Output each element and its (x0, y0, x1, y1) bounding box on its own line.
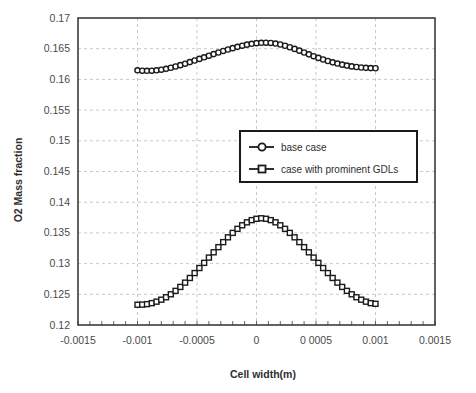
y-tick-label: 0.15 (50, 134, 71, 146)
data-point-marker (206, 255, 211, 260)
x-tick-label: 0 0005 (300, 334, 332, 346)
y-tick-label: 0.155 (44, 104, 70, 116)
x-tick-label: -0.0015 (60, 334, 96, 346)
y-tick-label: 0.16 (50, 73, 71, 85)
y-tick-label: 0.145 (44, 165, 70, 177)
x-tick-label: -0.001 (123, 334, 153, 346)
data-point-marker (302, 245, 307, 250)
data-point-marker (202, 260, 207, 265)
data-point-marker (316, 260, 321, 265)
data-point-marker (321, 266, 326, 271)
legend[interactable]: base casecase with prominent GDLs (240, 131, 417, 182)
y-tick-label: 0.13 (50, 257, 71, 269)
legend-entry-label: case with prominent GDLs (281, 164, 398, 175)
y-tick-labels: 0.120.1250.130.1350.140.1450.150.1550.16… (44, 12, 70, 331)
x-tick-label: 0 (254, 334, 260, 346)
legend-marker-circle (258, 143, 265, 150)
x-tick-labels: -0.0015-0.001-0.000500 00050.0010.0015 (60, 334, 451, 346)
x-tick-label: 0.001 (362, 334, 388, 346)
y-tick-label: 0.14 (50, 196, 71, 208)
data-point-marker (216, 245, 221, 250)
y-tick-label: 0.125 (44, 288, 70, 300)
data-point-marker (311, 255, 316, 260)
data-point-marker (373, 66, 378, 71)
chart-figure: -0.0015-0.001-0.000500 00050.0010.0015 0… (0, 0, 476, 393)
y-axis-title: O2 Mass fraction (12, 138, 24, 223)
data-point-marker (192, 271, 197, 276)
legend-entry-base-case[interactable]: base case (249, 142, 327, 153)
data-point-marker (373, 301, 378, 306)
x-tick-label: -0.0005 (179, 334, 215, 346)
x-tick-label: 0.0015 (419, 334, 451, 346)
data-point-marker (306, 250, 311, 255)
data-point-marker (197, 266, 202, 271)
x-axis-title: Cell width(m) (230, 368, 296, 380)
y-tick-label: 0.135 (44, 226, 70, 238)
legend-marker-square (259, 166, 266, 173)
data-point-marker (211, 250, 216, 255)
chart-plot: -0.0015-0.001-0.000500 00050.0010.0015 0… (0, 0, 476, 393)
data-point-marker (297, 240, 302, 245)
y-tick-label: 0.165 (44, 42, 70, 54)
y-tick-label: 0.12 (50, 319, 71, 331)
legend-entry-label: base case (281, 142, 327, 153)
y-tick-label: 0.17 (50, 12, 71, 24)
